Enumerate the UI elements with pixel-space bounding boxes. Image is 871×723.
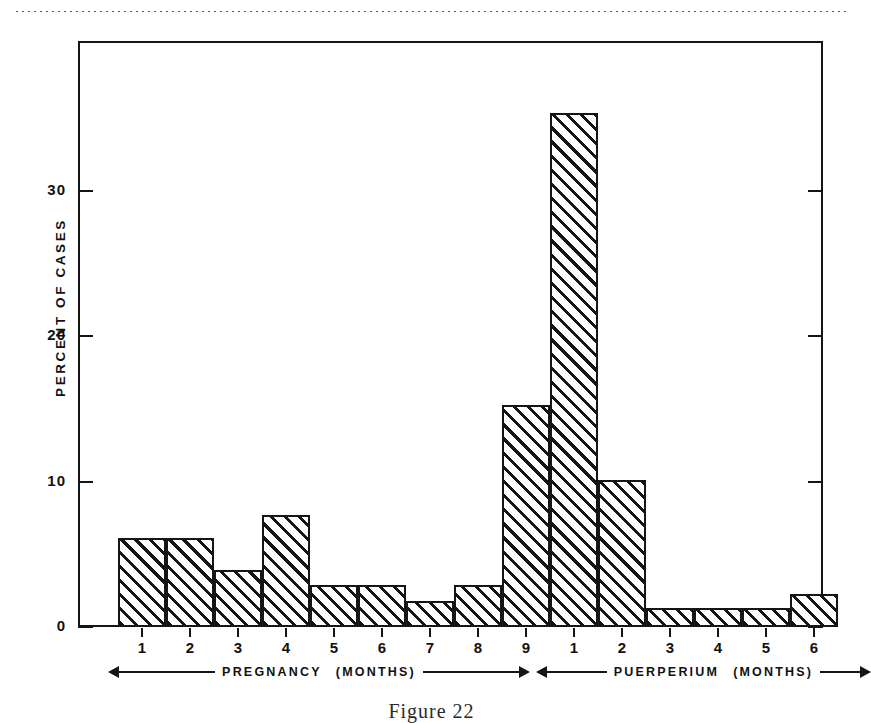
band-rule — [820, 671, 860, 673]
bar — [262, 515, 310, 627]
bar — [790, 594, 838, 627]
bar — [454, 585, 502, 627]
bar — [742, 608, 790, 627]
bar — [310, 585, 358, 627]
left-arrow-head-icon — [536, 666, 547, 678]
band-rule — [547, 671, 607, 673]
bar — [646, 608, 694, 627]
bar — [214, 570, 262, 627]
puerperium-axis-band: PUERPERIUM (MONTHS) — [564, 661, 843, 683]
bar — [406, 601, 454, 627]
puerperium-units: (MONTHS) — [726, 665, 820, 679]
bar — [118, 538, 166, 627]
band-rule — [119, 671, 215, 673]
bar — [598, 480, 646, 627]
band-rule — [423, 671, 519, 673]
bar — [358, 585, 406, 627]
figure-caption: Figure 22 — [0, 700, 863, 723]
bar — [550, 113, 598, 627]
right-arrow-head-icon — [860, 666, 871, 678]
right-arrow-head-icon — [519, 666, 530, 678]
puerperium-label: PUERPERIUM — [607, 665, 726, 679]
pregnancy-label: PREGNANCY — [215, 665, 329, 679]
pregnancy-axis-band: PREGNANCY (MONTHS) — [80, 661, 558, 683]
pregnancy-units: (MONTHS) — [329, 665, 423, 679]
bar — [694, 608, 742, 627]
bar — [502, 405, 550, 627]
left-arrow-head-icon — [108, 666, 119, 678]
bar — [166, 538, 214, 627]
